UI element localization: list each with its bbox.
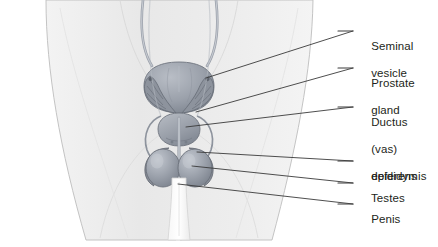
label-line: Ductus bbox=[371, 116, 407, 128]
diagram-canvas: Seminal vesicle Prostate gland Ductus (v… bbox=[0, 0, 438, 247]
label-line: Seminal bbox=[371, 40, 413, 52]
label-line: Prostate bbox=[371, 77, 415, 89]
label-line: (vas) bbox=[371, 143, 397, 155]
leader-line-dashes bbox=[338, 31, 353, 204]
label-line: Penis bbox=[371, 213, 400, 225]
label-penis: Penis bbox=[358, 199, 400, 240]
